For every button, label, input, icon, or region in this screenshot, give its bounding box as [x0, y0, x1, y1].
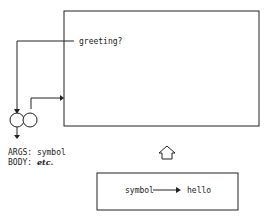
up-arrow-icon	[159, 146, 175, 159]
global-environment-box	[64, 11, 259, 126]
frame-value: hello	[187, 186, 211, 195]
binding-label-greeting: greeting?	[79, 37, 122, 46]
code-arrowhead	[14, 135, 20, 139]
body-label: BODY:	[8, 158, 32, 167]
frame-arrowhead	[176, 187, 181, 193]
frame-box	[97, 173, 238, 210]
procedure-circle-right	[23, 113, 37, 127]
frame-variable: symbol	[125, 186, 154, 195]
body-value: etc.	[37, 157, 53, 167]
procedure-circle-left	[10, 113, 24, 127]
args-value: symbol	[37, 148, 66, 157]
args-line: ARGS: symbol	[8, 148, 66, 157]
binding-pointer	[17, 41, 74, 110]
body-line: BODY: etc.	[8, 158, 53, 167]
args-label: ARGS:	[8, 148, 32, 157]
env-arrowhead	[60, 95, 64, 101]
env-pointer	[31, 98, 62, 109]
